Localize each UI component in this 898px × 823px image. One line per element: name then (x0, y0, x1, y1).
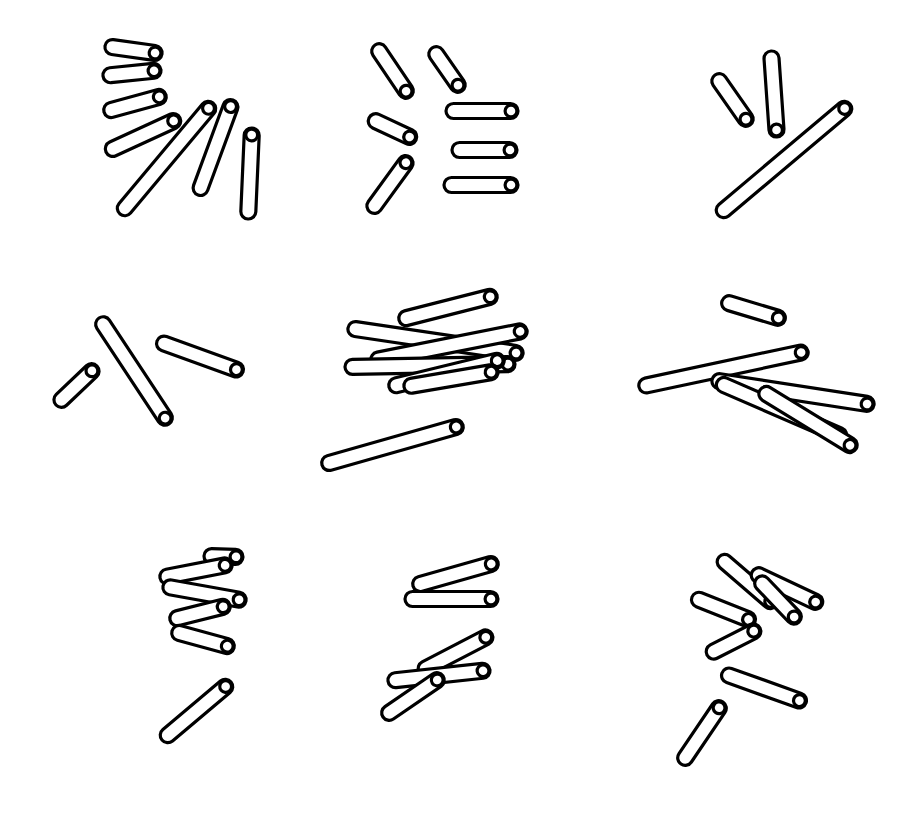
stick (241, 128, 260, 220)
stick (405, 592, 498, 607)
stick-end-cap (148, 46, 161, 59)
stick-end-cap (483, 290, 497, 304)
stick (446, 104, 518, 119)
stick-end-cap (220, 639, 235, 654)
stick-end-cap (216, 600, 230, 614)
stick-end-cap (148, 64, 161, 77)
stick-end-cap (223, 99, 238, 114)
stick-end-cap (484, 557, 499, 572)
stick-end-cap (770, 124, 783, 137)
stick-end-cap (477, 664, 490, 677)
stick-end-cap (449, 420, 464, 435)
stick-end-cap (484, 365, 498, 379)
stick-end-cap (246, 129, 258, 141)
stick-end-cap (792, 693, 807, 708)
stick-end-cap (513, 324, 527, 338)
stick (444, 178, 518, 193)
stick-end-cap (152, 90, 167, 105)
stick-end-cap (505, 105, 517, 117)
stick (452, 143, 517, 158)
stick-arrangement-figure (0, 0, 898, 823)
stick-end-cap (229, 362, 244, 377)
stick-end-cap (860, 397, 873, 410)
stick-end-cap (232, 593, 246, 607)
stick-end-cap (218, 558, 232, 572)
stick-end-cap (485, 593, 497, 605)
stick-end-cap (794, 345, 808, 359)
stick-end-cap (505, 179, 517, 191)
stick-end-cap (771, 311, 786, 326)
stick-end-cap (504, 144, 516, 156)
